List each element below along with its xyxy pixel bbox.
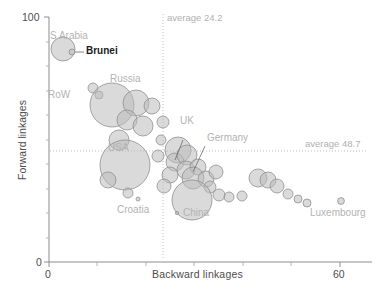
label-uk: UK <box>180 115 194 126</box>
x-tick-label-0: 0 <box>45 268 51 280</box>
bubble-brazil <box>123 188 133 198</box>
bubble-malta <box>175 211 178 214</box>
label-china: China <box>183 207 209 218</box>
average-vertical-label: average 24.2 <box>167 12 222 23</box>
label-row: RoW <box>48 89 70 100</box>
bubble-canada <box>100 172 116 188</box>
bubble-chart: 100 0 0 60 Backward linkages Forward lin… <box>0 0 381 308</box>
bubble-venezuela <box>157 116 169 128</box>
bubble-netherlands <box>209 165 223 179</box>
x-tick-label-60: 60 <box>333 268 345 280</box>
average-horizontal-label: average 48.7 <box>305 138 360 149</box>
bubble-turkey <box>157 179 171 193</box>
chart-canvas <box>0 0 381 308</box>
bubble-brunei <box>69 49 75 55</box>
label-croatia: Croatia <box>117 204 149 215</box>
label-russia: Russia <box>110 73 141 84</box>
label-brunei: Brunei <box>86 45 118 56</box>
bubble-belgium <box>237 191 247 201</box>
bubble-india <box>152 150 164 162</box>
bubble-hungary <box>294 195 302 203</box>
y-tick-label-0: 0 <box>36 256 42 268</box>
bubble-australia <box>156 135 166 145</box>
bubble-ireland <box>270 179 284 193</box>
y-axis-title: Forward linkages <box>16 100 28 180</box>
bubbles-group <box>51 37 344 220</box>
label-s-arabia: S Arabia <box>50 30 88 41</box>
bubble-austria <box>224 192 234 202</box>
bubble-mideast <box>133 116 153 136</box>
label-usa: USA <box>108 142 129 153</box>
bubble-finland <box>283 189 293 199</box>
x-axis-title: Backward linkages <box>152 268 243 280</box>
bubble-sweden <box>213 189 225 201</box>
y-tick-label-100: 100 <box>22 11 40 23</box>
bubble-luxembourg <box>338 198 345 205</box>
bubble-croatia <box>136 197 140 201</box>
bubble-indonesia <box>144 98 160 114</box>
label-germany: Germany <box>207 132 248 143</box>
label-luxembourg: Luxembourg <box>310 207 366 218</box>
bubble-slovakia <box>303 199 311 207</box>
